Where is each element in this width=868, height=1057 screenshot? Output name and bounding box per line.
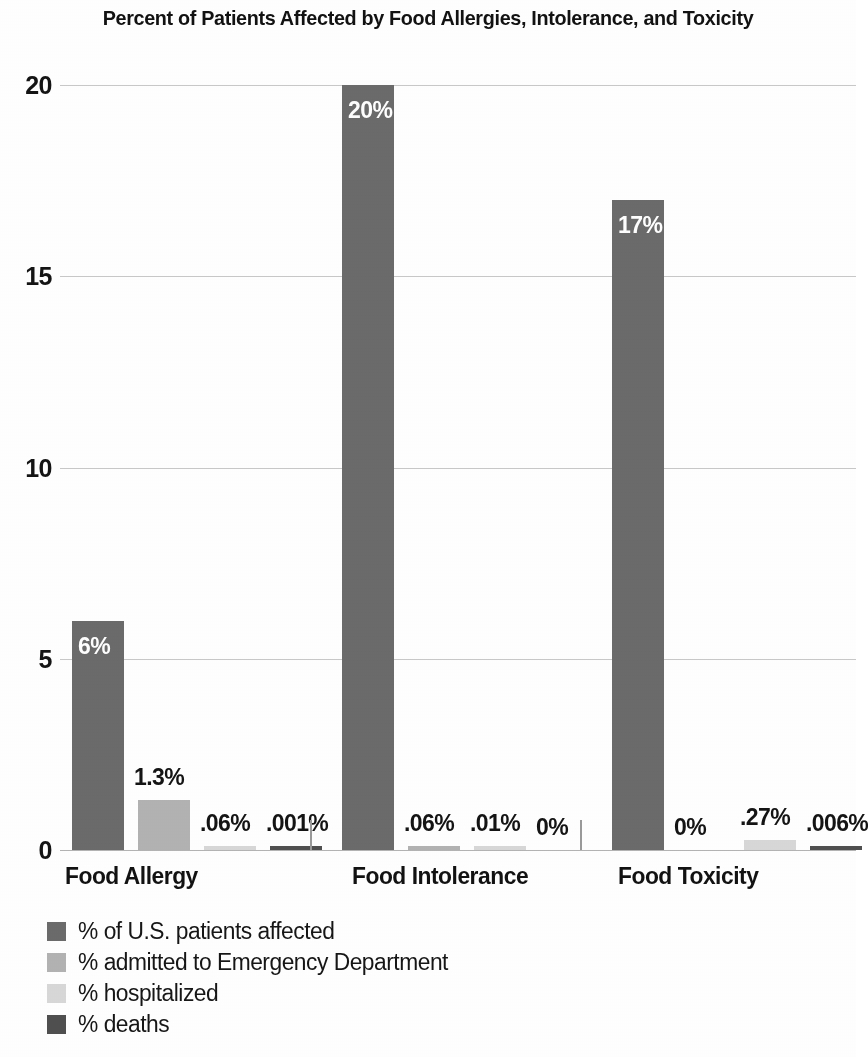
bar <box>204 846 256 850</box>
bar-value-label: 20% <box>348 99 392 122</box>
gridline <box>60 85 856 86</box>
bar <box>138 800 190 850</box>
legend-item-label: % hospitalized <box>78 980 218 1007</box>
bar <box>810 846 862 850</box>
bar <box>408 846 460 850</box>
bar-value-label: .06% <box>404 812 454 835</box>
chart-legend: % of U.S. patients affected% admitted to… <box>47 916 847 1040</box>
legend-swatch-icon <box>47 1015 66 1034</box>
y-axis-tick-label: 5 <box>6 646 52 671</box>
y-axis-tick-label: 0 <box>6 838 52 863</box>
y-axis-tick-label: 10 <box>6 455 52 480</box>
legend-item-label: % deaths <box>78 1011 169 1038</box>
bar-value-label: .006% <box>806 812 868 835</box>
bar <box>744 840 796 850</box>
x-axis-label-1: Food Intolerance <box>352 862 528 890</box>
y-axis-tick-label: 20 <box>6 73 52 98</box>
bar <box>612 200 664 850</box>
legend-item-label: % admitted to Emergency Department <box>78 949 448 976</box>
bar-value-label: 0% <box>674 816 706 839</box>
chart-title: Percent of Patients Affected by Food All… <box>15 6 841 30</box>
legend-swatch-icon <box>47 953 66 972</box>
gridline <box>60 468 856 469</box>
x-axis-label-2: Food Toxicity <box>618 862 758 890</box>
x-axis-category-labels: Food AllergyFood IntoleranceFood Toxicit… <box>0 862 856 902</box>
y-axis-tick-label: 15 <box>6 264 52 289</box>
gridline <box>60 850 856 851</box>
bar-value-label: .06% <box>200 812 250 835</box>
group-separator-tick <box>310 820 312 850</box>
bar-value-label: .01% <box>470 812 520 835</box>
plot-area: 6%1.3%.06%.001%20%.06%.01%0%17%0%.27%.00… <box>60 85 856 850</box>
y-axis: 20151050 <box>0 85 52 850</box>
x-axis-label-0: Food Allergy <box>65 862 198 890</box>
bar <box>342 85 394 850</box>
bar-value-label: .001% <box>266 812 328 835</box>
legend-item: % hospitalized <box>47 978 847 1009</box>
bar-value-label: 6% <box>78 635 110 658</box>
legend-item: % deaths <box>47 1009 847 1040</box>
bar-value-label: .27% <box>740 806 790 829</box>
bar <box>270 846 322 850</box>
bar <box>474 846 526 850</box>
bar-value-label: 1.3% <box>134 766 184 789</box>
gridline <box>60 659 856 660</box>
group-separator-tick <box>580 820 582 850</box>
legend-swatch-icon <box>47 984 66 1003</box>
bar-value-label: 0% <box>536 816 568 839</box>
legend-item: % admitted to Emergency Department <box>47 947 847 978</box>
legend-item: % of U.S. patients affected <box>47 916 847 947</box>
gridline <box>60 276 856 277</box>
legend-swatch-icon <box>47 922 66 941</box>
bar-value-label: 17% <box>618 214 662 237</box>
legend-item-label: % of U.S. patients affected <box>78 918 334 945</box>
